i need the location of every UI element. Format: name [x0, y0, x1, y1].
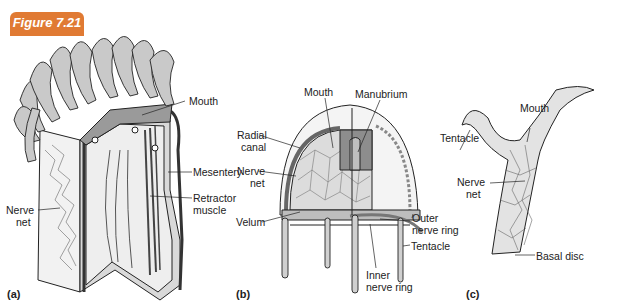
label-c-basal-disc: Basal disc [536, 250, 584, 262]
label-b-radial-canal-line2: canal [241, 141, 266, 153]
figure-illustration [0, 0, 624, 307]
label-a-retractor-muscle-line2: muscle [193, 204, 226, 216]
label-a-nerve-net-line2: net [16, 216, 31, 228]
label-a-nerve-net-line1: Nerve [6, 204, 34, 216]
label-b-nerve-net-line1: Nerve [237, 165, 265, 177]
label-c-nerve-net-line2: net [466, 188, 481, 200]
label-c-nerve-net-line1: Nerve [457, 176, 485, 188]
label-b-nerve-net-line2: net [250, 177, 265, 189]
label-c-mouth: Mouth [520, 102, 549, 114]
panel-letter-b: (b) [236, 288, 250, 300]
medusa-illustration [258, 98, 422, 293]
label-b-inner-nerve-ring-line1: Inner [366, 269, 390, 281]
label-b-tentacle: Tentacle [411, 240, 450, 252]
label-b-inner-nerve-ring-line2: nerve ring [366, 281, 413, 293]
label-a-mesentery: Mesentery [193, 166, 242, 178]
label-b-radial-canal-line1: Radial [237, 129, 267, 141]
label-a-mouth: Mouth [189, 95, 218, 107]
panel-letter-a: (a) [7, 288, 20, 300]
panel-letter-c: (c) [466, 288, 479, 300]
label-b-mouth: Mouth [304, 86, 333, 98]
label-a-retractor-muscle-line1: Retractor [193, 192, 236, 204]
anemone-illustration [14, 36, 192, 300]
label-c-tentacle: Tentacle [440, 132, 479, 144]
label-b-outer-nerve-ring-line2: nerve ring [412, 224, 459, 236]
label-b-outer-nerve-ring-line1: Outer [412, 212, 438, 224]
label-b-manubrium: Manubrium [355, 88, 408, 100]
label-b-velum: Velum [236, 216, 265, 228]
